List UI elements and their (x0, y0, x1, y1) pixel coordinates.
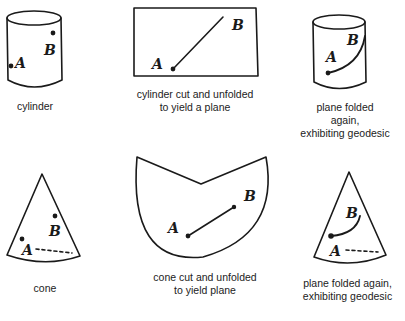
point-b-label: B (231, 17, 244, 33)
point-b-label: B (48, 223, 61, 239)
point-a-label: A (324, 49, 337, 65)
point-a-label: A (150, 56, 163, 72)
cone-caption: cone (15, 282, 75, 295)
cone-refolded-caption: plane folded again, exhibiting geodesic (290, 277, 405, 303)
unfolded-cylinder-plane: B A (134, 8, 258, 76)
point-a-label: A (166, 220, 179, 236)
cylinder-caption: cylinder (0, 100, 70, 113)
refolded-cone-geodesic: B A (314, 172, 386, 263)
point-b-label: B (345, 205, 358, 221)
unfolded-cone-sector: B A (136, 157, 268, 258)
point-a-label: A (328, 243, 341, 259)
point-a-label: A (20, 242, 33, 258)
point-b-label: B (43, 42, 56, 58)
refolded-cylinder-geodesic: B A (313, 15, 366, 89)
cone-figure: B A (7, 174, 80, 262)
point-a-label: A (13, 55, 26, 71)
cylinder-unfolded-caption: cylinder cut and unfolded to yield a pla… (120, 88, 270, 114)
cylinder-refolded-caption: plane folded again, exhibiting geodesic (290, 101, 400, 140)
cone-unfolded-caption: cone cut and unfolded to yield plane (130, 271, 280, 297)
point-b-label: B (346, 32, 359, 48)
point-b-label: B (243, 188, 256, 204)
cylinder-figure: B A (7, 11, 62, 87)
